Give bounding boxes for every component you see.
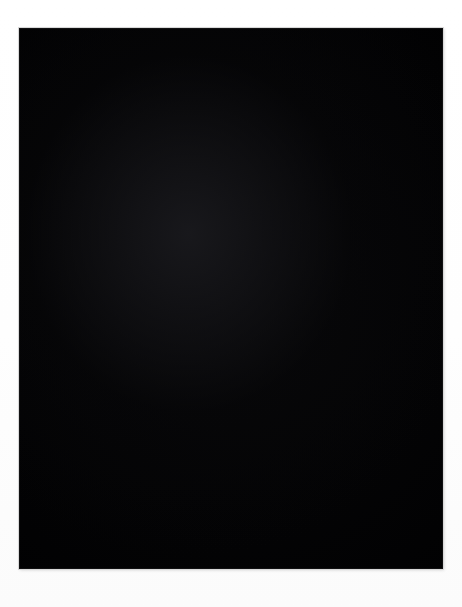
photographic-plate <box>19 28 443 569</box>
caption-area <box>0 571 462 607</box>
sky-background-gradient <box>19 28 443 569</box>
astronomy-image-page <box>0 0 462 607</box>
sky-field <box>19 28 443 569</box>
